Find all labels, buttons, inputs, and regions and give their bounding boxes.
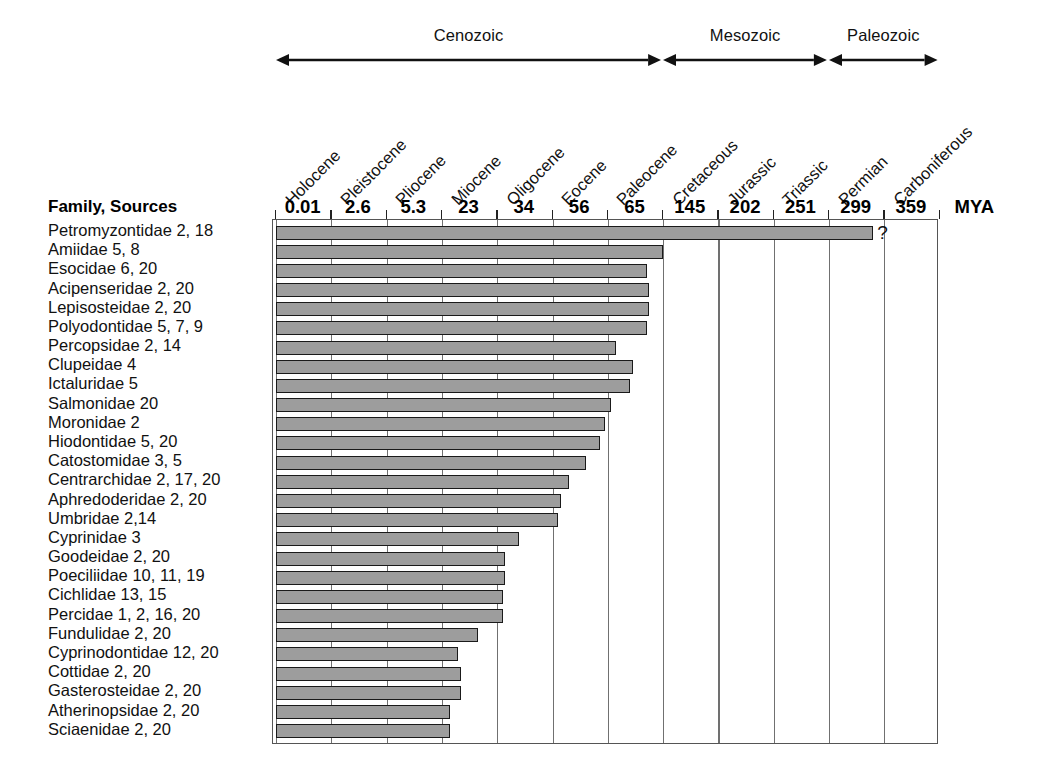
- era-double-arrow-icon: [276, 53, 661, 67]
- category-label: Esocidae 6, 20: [48, 259, 157, 278]
- category-label: Moronidae 2: [48, 413, 140, 432]
- bar: [276, 475, 569, 489]
- category-label: Cichlidae 13, 15: [48, 585, 166, 604]
- axis-tickmark: [883, 210, 884, 219]
- category-label: Cottidae 2, 20: [48, 662, 151, 681]
- axis-tickmark: [275, 210, 276, 219]
- axis-tick-label: 145: [674, 196, 705, 218]
- axis-tickmark: [441, 210, 442, 219]
- category-label: Umbridae 2,14: [48, 509, 156, 528]
- era-double-arrow-icon: [663, 53, 827, 67]
- bar-end-annotation: ?: [877, 223, 888, 242]
- axis-tick-label: 5.3: [400, 196, 426, 218]
- bar: [276, 609, 503, 623]
- bar: [276, 436, 600, 450]
- bar: [276, 321, 647, 335]
- bar: [276, 417, 605, 431]
- bar: [276, 513, 558, 527]
- category-label: Polyodontidae 5, 7, 9: [48, 317, 203, 336]
- bar: [276, 360, 633, 374]
- category-label: Lepisosteidae 2, 20: [48, 298, 191, 317]
- era-label: Paleozoic: [829, 26, 938, 45]
- axis-tickmark: [552, 210, 553, 219]
- category-label: Percopsidae 2, 14: [48, 336, 181, 355]
- bar: [276, 341, 616, 355]
- axis-tick-label: 251: [785, 196, 816, 218]
- category-label: Gasterosteidae 2, 20: [48, 681, 201, 700]
- bar: [276, 302, 649, 316]
- category-label: Percidae 1, 2, 16, 20: [48, 605, 200, 624]
- bar: [276, 245, 663, 259]
- era-label: Mesozoic: [663, 26, 827, 45]
- bar: [276, 398, 611, 412]
- bar: [276, 379, 630, 393]
- gridline: [663, 220, 664, 743]
- gridline: [829, 220, 830, 743]
- gridline: [718, 220, 719, 743]
- row-header-label: Family, Sources: [48, 197, 177, 217]
- axis-tickmark: [330, 210, 331, 219]
- bar: [276, 264, 647, 278]
- bar: [276, 647, 458, 661]
- axis-tick-label: 56: [569, 196, 590, 218]
- bar: [276, 571, 505, 585]
- axis-tickmark: [386, 210, 387, 219]
- bar: [276, 667, 461, 681]
- category-label: Sciaenidae 2, 20: [48, 720, 171, 739]
- axis-tick-label: 23: [458, 196, 479, 218]
- bar: [276, 552, 505, 566]
- bar: [276, 226, 873, 240]
- category-label: Fundulidae 2, 20: [48, 624, 171, 643]
- category-label: Poeciliidae 10, 11, 19: [48, 566, 205, 585]
- axis-tick-label: 65: [624, 196, 645, 218]
- category-label: Clupeidae 4: [48, 355, 136, 374]
- era-band: Paleozoic: [829, 26, 938, 70]
- bar: [276, 456, 586, 470]
- axis-tick-label: 359: [896, 196, 927, 218]
- period-label: Oligocene: [502, 143, 568, 209]
- gridline: [608, 220, 609, 743]
- axis-tick-label: 2.6: [345, 196, 371, 218]
- axis-tick-label: 299: [840, 196, 871, 218]
- axis-tickmark: [607, 210, 608, 219]
- axis-tick-label: 0.01: [285, 196, 321, 218]
- category-label: Cyprinodontidae 12, 20: [48, 643, 219, 662]
- category-label: Salmonidae 20: [48, 394, 158, 413]
- category-label: Catostomidae 3, 5: [48, 451, 182, 470]
- bar: [276, 705, 450, 719]
- axis-tick-label: 202: [730, 196, 761, 218]
- axis-tick-label: 34: [514, 196, 535, 218]
- axis-unit-label: MYA: [955, 196, 994, 218]
- category-label: Amiidae 5, 8: [48, 240, 140, 259]
- category-label: Petromyzontidae 2, 18: [48, 221, 213, 240]
- category-label: Cyprinidae 3: [48, 528, 141, 547]
- category-label: Centrarchidae 2, 17, 20: [48, 470, 220, 489]
- era-label: Cenozoic: [276, 26, 661, 45]
- category-label: Goodeidae 2, 20: [48, 547, 170, 566]
- plot-area: [272, 219, 938, 744]
- bar: [276, 686, 461, 700]
- axis-tickmark: [717, 210, 718, 219]
- axis-tickmark: [828, 210, 829, 219]
- category-label: Hiodontidae 5, 20: [48, 432, 177, 451]
- axis-tickmark: [939, 210, 940, 219]
- category-label: Ictaluridae 5: [48, 374, 138, 393]
- axis-tickmark: [773, 210, 774, 219]
- era-band: Mesozoic: [663, 26, 827, 70]
- bar: [276, 590, 503, 604]
- axis-tickmark: [662, 210, 663, 219]
- bar: [276, 628, 478, 642]
- bar: [276, 532, 519, 546]
- bar: [276, 494, 561, 508]
- category-label: Atherinopsidae 2, 20: [48, 701, 199, 720]
- bar: [276, 283, 649, 297]
- axis-tickmark: [496, 210, 497, 219]
- category-label: Aphredoderidae 2, 20: [48, 490, 207, 509]
- era-band: Cenozoic: [276, 26, 661, 70]
- category-label: Acipenseridae 2, 20: [48, 279, 194, 298]
- gridline: [774, 220, 775, 743]
- chart-canvas: CenozoicMesozoicPaleozoic HolocenePleist…: [0, 0, 1045, 777]
- era-double-arrow-icon: [829, 53, 938, 67]
- gridline: [884, 220, 885, 743]
- bar: [276, 724, 450, 738]
